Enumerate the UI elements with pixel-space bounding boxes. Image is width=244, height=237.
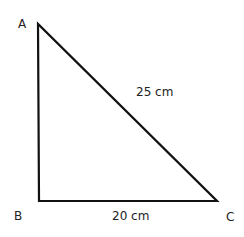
vertex-label-c: C [226, 211, 234, 223]
vertex-label-b: B [14, 210, 22, 222]
vertex-label-a: A [18, 18, 26, 30]
base-length-label: 20 cm [112, 210, 149, 222]
hypotenuse-length-label: 25 cm [136, 86, 173, 98]
right-triangle [0, 0, 244, 237]
triangle-abc [38, 24, 217, 201]
